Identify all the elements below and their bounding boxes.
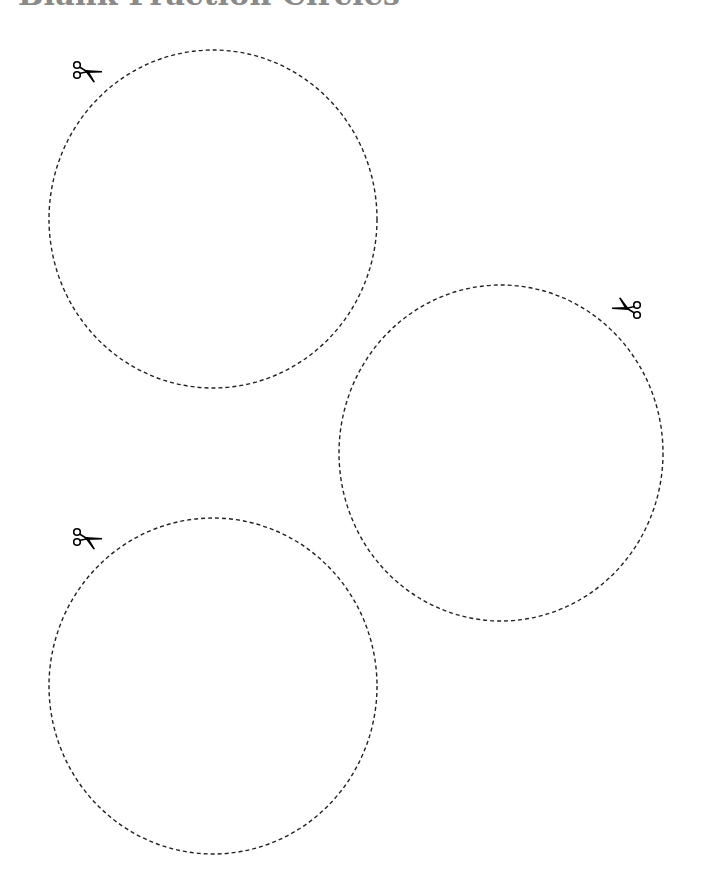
- fraction-circle-1: [49, 50, 377, 388]
- fraction-circle-3: [49, 518, 377, 854]
- fraction-circle-2: [339, 285, 663, 621]
- scissors-icon: [74, 62, 102, 83]
- scissors-icon: [74, 529, 102, 550]
- scissors-icon: [612, 298, 640, 319]
- fraction-circles-sheet: [0, 0, 712, 888]
